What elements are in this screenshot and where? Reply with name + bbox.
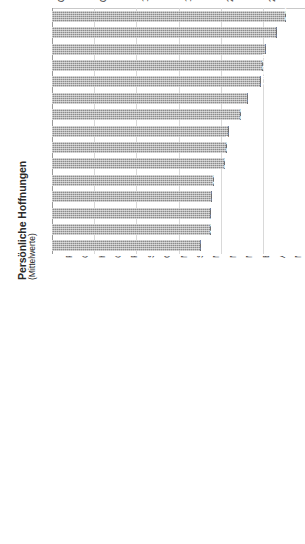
category-label: Mehr Sicherheit im persönlichen Umfeld -… <box>245 256 254 258</box>
bar-value-label: 1,92 <box>211 169 221 186</box>
category-label: Ordnung in meinem Leben - 7 <box>163 256 172 258</box>
bar <box>52 175 214 186</box>
tick-label: 1,50 <box>183 0 193 2</box>
bar-value-label: 1,77 <box>199 234 209 251</box>
bar <box>52 142 227 153</box>
category-label: Mehr Freizeit - 11 <box>229 256 238 258</box>
bar <box>52 93 248 104</box>
bar <box>52 158 225 169</box>
category-label: Anderen Menschen helfen können - 14 <box>278 256 287 258</box>
category-label: Glückliche Ehe, Familie, Partnerschaft -… <box>81 256 90 258</box>
tick-label: 2,00 <box>225 0 235 2</box>
bar <box>52 60 263 71</box>
bar-value-label: 2,07 <box>224 136 234 153</box>
bar <box>52 11 286 22</box>
category-label: Gute und vertrauensvolle Beziehungen - 4 <box>114 256 123 258</box>
bar <box>52 208 211 219</box>
tick-label: 0,50 <box>98 0 108 2</box>
category-label: Erfolg am Arbeitsplatz, in der Ausbildun… <box>262 256 271 258</box>
tick-label: 2,50 <box>267 0 277 2</box>
category-label: Persönliche Gesundheit - 1 <box>65 256 74 258</box>
bar-value-label: 2,54 <box>264 37 274 54</box>
bar-value-label: 2,24 <box>238 103 248 120</box>
bar <box>52 76 261 87</box>
bar <box>52 240 201 251</box>
bar-value-label: 2,05 <box>222 152 232 169</box>
category-label: Harmonie im Leben - 3 <box>98 256 107 258</box>
category-label: Sicherer Arbeitsplatz - 9 <box>196 256 205 258</box>
category-label: Sinnvolle und erfüllende Aufgabe - 6 <box>147 256 156 258</box>
bar <box>52 44 266 55</box>
chart-root: Persönliche Hoffnungen (Mittelwerte) 0,0… <box>0 0 305 544</box>
bar <box>52 126 229 137</box>
bar <box>52 109 241 120</box>
bar-value-label: 2,10 <box>227 119 237 136</box>
bar-value-label: 2,33 <box>246 87 256 104</box>
bar-value-label: 2,67 <box>275 21 285 38</box>
bar-value-label: 1,89 <box>209 201 219 218</box>
category-label: Mehr Sex, romantische Erlebnisse - 15 <box>294 256 303 258</box>
tick-label: 0,00 <box>56 0 66 2</box>
category-label: Persönliche Unabhängigkeit und Selbstbes… <box>130 256 139 258</box>
bar <box>52 27 277 38</box>
tick-label: 1,00 <box>140 0 150 2</box>
category-label: Mehr Zeit zur Entspannung - 10 <box>212 256 221 258</box>
bar-value-label: 2,77 <box>283 5 293 22</box>
bar <box>52 191 212 202</box>
bar-value-label: 1,88 <box>208 218 218 235</box>
bar <box>52 224 211 235</box>
category-label: Mehr Spaß mit Freunden - 8 <box>180 256 189 258</box>
category-axis-labels: Persönliche Gesundheit - 1Glückliche Ehe… <box>0 256 305 544</box>
bar-value-label: 2,50 <box>260 54 270 71</box>
bar-value-label: 2,48 <box>259 70 269 87</box>
bar-value-label: 1,90 <box>210 185 220 202</box>
